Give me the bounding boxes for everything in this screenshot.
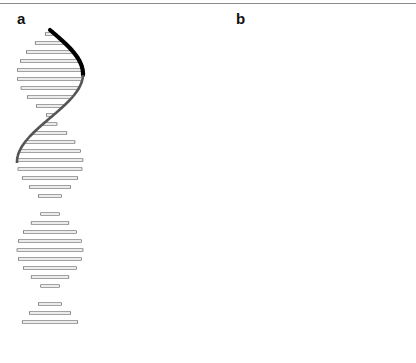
base-pair xyxy=(19,258,82,260)
base-pair xyxy=(22,321,78,323)
base-pair xyxy=(31,222,69,224)
base-pair xyxy=(38,195,61,197)
base-pair xyxy=(19,240,82,242)
base-pair xyxy=(31,276,69,278)
base-pair xyxy=(33,132,67,134)
base-pair xyxy=(25,141,75,143)
base-pair xyxy=(17,69,82,71)
base-pair xyxy=(24,231,77,233)
base-pair xyxy=(29,312,70,314)
panel-a-helices xyxy=(17,30,83,323)
base-pair xyxy=(17,159,83,161)
base-pair xyxy=(22,177,78,179)
base-pair xyxy=(36,105,63,107)
base-pair xyxy=(21,87,79,89)
base-pair xyxy=(20,150,81,152)
base-pair xyxy=(20,60,79,62)
base-pair xyxy=(38,303,61,305)
base-pair xyxy=(24,267,77,269)
base-pair xyxy=(17,249,83,251)
base-pair xyxy=(35,42,65,44)
base-pair xyxy=(18,78,83,80)
base-pair xyxy=(28,96,73,98)
base-pair xyxy=(29,186,70,188)
dna-figure xyxy=(0,0,416,363)
helix-a-left xyxy=(17,30,83,323)
base-pair xyxy=(41,285,60,287)
base-pair xyxy=(18,168,82,170)
base-pair xyxy=(27,51,74,53)
base-pair xyxy=(41,213,60,215)
